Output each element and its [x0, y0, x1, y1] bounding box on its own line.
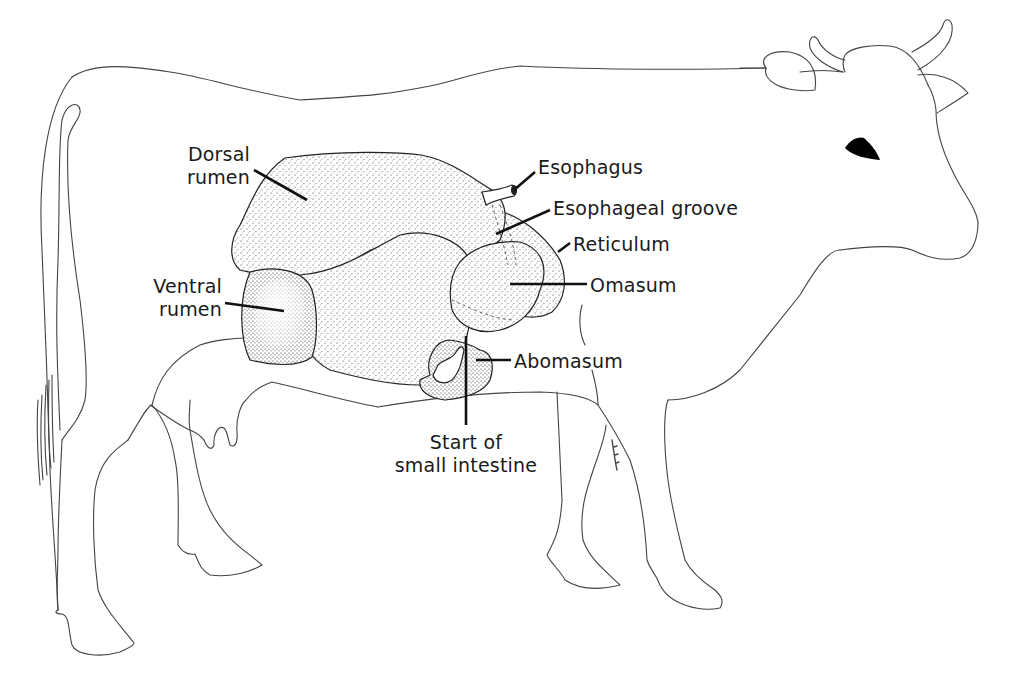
label-abomasum: Abomasum [514, 350, 623, 373]
cow-forearm [592, 370, 598, 405]
label-dorsal-rumen: Dorsal rumen [172, 143, 250, 189]
rear-leg-near [128, 400, 262, 576]
tail-switch [37, 375, 54, 485]
label-ventral-rumen: Ventral rumen [138, 275, 222, 321]
rear-hoof-back [56, 440, 134, 655]
artist-signature [612, 440, 619, 470]
cow-stomach-diagram: Dorsal rumen Ventral rumen Esophagus Eso… [0, 0, 1012, 682]
label-start-small-intestine: Start of small intestine [384, 431, 548, 477]
cow-poll [843, 45, 928, 85]
cow-tail [57, 105, 87, 440]
cow-back [72, 66, 766, 100]
ventral-rumen-highlight [255, 280, 305, 350]
cow-face [928, 85, 978, 222]
cow-belly [378, 392, 598, 407]
cow-ear-left-base [800, 71, 843, 73]
front-leg-near [598, 400, 722, 609]
leader-reticulum [558, 243, 570, 252]
cow-eye [845, 137, 880, 160]
cow-jaw [840, 222, 978, 259]
cow-chest [668, 250, 840, 400]
cow-udder [204, 382, 378, 448]
cow-horn-left [810, 37, 845, 72]
rear-leg-outer [57, 440, 62, 610]
label-esophagus: Esophagus [538, 156, 643, 179]
label-dorsal-rumen-line1: Dorsal [172, 143, 250, 166]
cow-stifle [150, 405, 204, 440]
cow-horn-right [912, 20, 952, 70]
label-small-intestine-line1: Start of [384, 431, 548, 454]
label-omasum: Omasum [590, 274, 677, 297]
label-ventral-rumen-line2: rumen [138, 298, 222, 321]
label-ventral-rumen-line1: Ventral [138, 275, 222, 298]
label-dorsal-rumen-line2: rumen [172, 166, 250, 189]
cow-outline [37, 20, 978, 655]
label-esophageal-groove: Esophageal groove [553, 197, 738, 220]
diagram-canvas [0, 0, 1012, 682]
leader-esophagus [514, 172, 535, 190]
cow-thigh [152, 338, 245, 405]
label-reticulum: Reticulum [573, 233, 670, 256]
cow-shoulder [580, 305, 585, 345]
label-small-intestine-line2: small intestine [384, 454, 548, 477]
